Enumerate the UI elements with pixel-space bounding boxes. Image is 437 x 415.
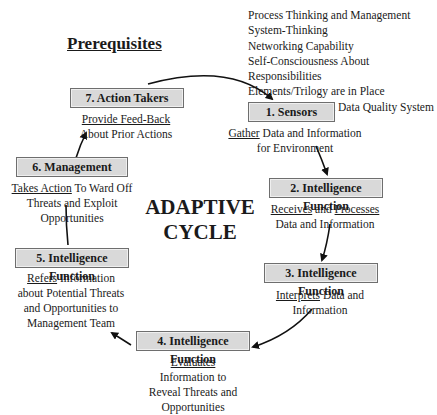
step-7-box: 7. Action Takers xyxy=(70,88,184,108)
step-5-box: 5. Intelligence Function xyxy=(15,248,129,268)
step-6-description: Takes Action To Ward Off Threats and Exp… xyxy=(6,181,138,226)
step-4-description: Evaluates Information to Reveal Threats … xyxy=(128,355,258,415)
step-6-box: 6. Management xyxy=(16,157,128,177)
step-1-box: 1. Sensors xyxy=(248,102,335,122)
step-3-description: Interprets Data and Information xyxy=(255,288,385,318)
arrow-4-to-5 xyxy=(112,333,131,345)
step-5-description: Refers Information about Potential Threa… xyxy=(6,271,136,331)
step-7-description: Provide Feed-Back About Prior Actions xyxy=(60,112,192,142)
step-3-box: 3. Intelligence Function xyxy=(264,263,378,283)
adaptive-cycle-label: ADAPTIVE CYCLE xyxy=(140,195,260,245)
step-2-description: Receives and Processes Data and Informat… xyxy=(255,202,395,232)
step-4-box: 4. Intelligence Function xyxy=(136,331,250,351)
step-1-description: Gather Data and Information for Environm… xyxy=(215,126,375,156)
step-2-box: 2. Intelligence Function xyxy=(269,178,383,198)
